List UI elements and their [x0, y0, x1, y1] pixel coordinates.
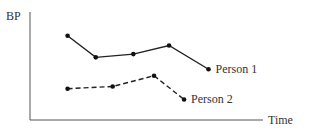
- data-point-person-1-4: [167, 43, 172, 48]
- data-point-person-2-2: [110, 84, 115, 89]
- series-line-person-2: [68, 76, 185, 100]
- data-point-person-1-5: [206, 67, 211, 72]
- series-line-person-1: [68, 36, 209, 69]
- x-axis-label: Time: [268, 113, 293, 127]
- data-point-person-2-1: [65, 86, 70, 91]
- data-point-person-1-1: [65, 33, 70, 38]
- series-label-person-2: Person 2: [191, 92, 233, 106]
- data-point-person-2-3: [152, 73, 157, 78]
- data-point-person-1-2: [93, 55, 98, 60]
- y-axis-label: BP: [6, 9, 21, 23]
- data-point-person-2-4: [182, 97, 187, 102]
- line-chart: BP Time Person 1Person 2: [0, 0, 309, 134]
- data-point-person-1-3: [131, 52, 136, 57]
- series-label-person-1: Person 1: [216, 62, 258, 76]
